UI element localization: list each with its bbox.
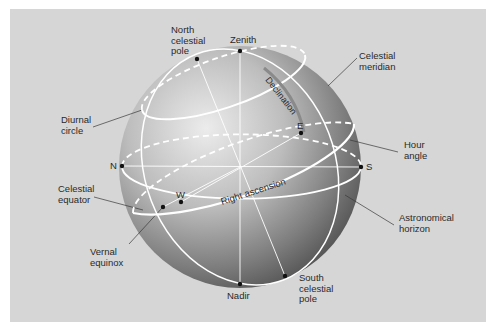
north-celestial-pole-label: North celestial pole (171, 25, 205, 57)
zenith-label: Zenith (230, 35, 256, 46)
north-point (120, 164, 124, 168)
north-celestial-pole-point (195, 57, 199, 61)
west-point-label: W (176, 189, 185, 200)
south-celestial-pole-label: South celestial pole (299, 273, 333, 305)
celestial-equator-label: Celestial equator (58, 184, 94, 205)
diurnal-circle-label: Diurnal circle (61, 115, 91, 136)
vernal-equinox-label: Vernal equinox (90, 247, 123, 268)
south-point-label: S (366, 161, 372, 172)
vernal-equinox-point (161, 205, 165, 209)
hour-angle-label: Hour angle (404, 140, 427, 161)
west-point (179, 200, 183, 204)
celestial-meridian-label: Celestial meridian (359, 51, 395, 72)
zenith-point (238, 49, 242, 53)
nadir-label: Nadir (227, 291, 250, 302)
east-point-label: E (297, 120, 303, 131)
south-celestial-pole-point (283, 274, 287, 278)
east-point (299, 131, 303, 135)
astronomical-horizon-label: Astronomical horizon (399, 213, 454, 234)
north-point-label: N (110, 160, 117, 171)
nadir-point (238, 282, 242, 286)
south-point (359, 165, 363, 169)
celestial-sphere-diagram: Declination Right ascension (0, 0, 494, 330)
